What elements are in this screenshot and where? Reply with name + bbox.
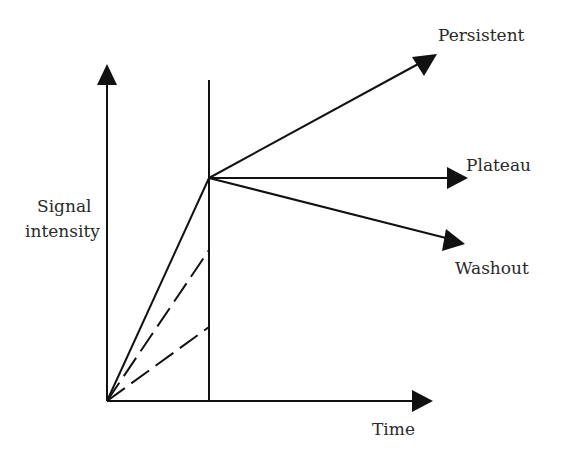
signal-intensity-curve-diagram: Signal intensity Time Persistent Plateau… — [0, 0, 565, 459]
plateau-arrow-icon — [447, 167, 468, 189]
washout-arrow-icon — [442, 229, 465, 251]
persistent-label: Persistent — [438, 25, 524, 46]
y-axis-label-line1: Signal — [37, 196, 92, 217]
x-axis-label: Time — [372, 419, 415, 440]
persistent-curve — [209, 63, 420, 178]
uptake-line-high — [107, 178, 209, 401]
uptake-line-medium — [107, 250, 209, 401]
uptake-line-low — [107, 327, 209, 401]
y-axis-label-line2: intensity — [25, 221, 100, 242]
washout-label: Washout — [455, 258, 529, 279]
washout-curve — [209, 178, 446, 238]
y-axis-arrow-icon — [97, 64, 117, 85]
plateau-label: Plateau — [466, 155, 531, 176]
x-axis-arrow-icon — [412, 390, 433, 412]
